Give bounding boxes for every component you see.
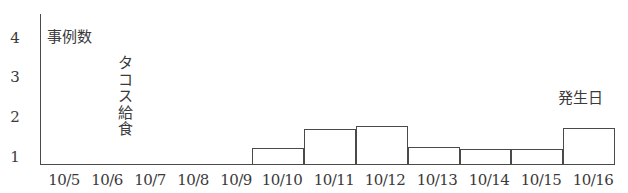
bar-10-15 [511,149,563,164]
y-tick-1: 1 [8,149,22,165]
y-axis-label: 事例数 [47,29,92,45]
x-tick: 10/15 [516,172,566,188]
x-tick: 10/13 [412,172,462,188]
x-axis [40,164,615,165]
x-tick: 10/12 [360,172,410,188]
annotation-char: 給 [117,105,133,122]
annotation-char: 食 [117,121,133,138]
annotation-char: ス [117,88,133,105]
y-axis [40,14,41,165]
y-tick-3: 3 [8,69,22,85]
x-axis-label: 発生日 [558,90,603,106]
bar-10-10 [252,148,304,164]
x-tick: 10/16 [568,172,618,188]
annotation-char: コ [117,72,133,89]
event-annotation: タ コ ス 給 食 [117,55,133,138]
x-tick: 10/10 [257,172,307,188]
y-tick-2: 2 [8,109,22,125]
epidemic-curve-chart: 4 3 2 1 事例数 タ コ ス 給 食 発生日 10/5 10/6 10/7… [0,0,628,193]
bar-10-12 [356,126,408,164]
x-tick: 10/11 [309,172,359,188]
annotation-char: タ [117,55,133,72]
bar-10-11 [304,129,356,164]
y-tick-4: 4 [8,30,22,46]
x-tick: 10/14 [464,172,514,188]
bar-10-16 [563,128,615,164]
x-tick: 10/9 [211,172,261,188]
bar-10-14 [460,149,511,164]
bar-10-13 [408,147,460,164]
